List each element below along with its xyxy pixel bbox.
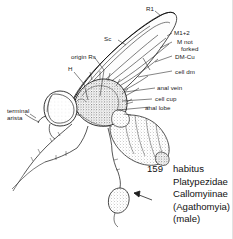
label-m1-2: M1+2: [174, 30, 190, 37]
label-anal-lobe: anal lobe: [145, 105, 171, 112]
leader-anal-vein: [125, 88, 155, 92]
hindleg-tarsus-expanded: [108, 188, 129, 213]
proboscis: [49, 124, 55, 139]
figure-number: 159: [147, 163, 163, 176]
leg-bristles: [31, 132, 120, 170]
label-r1: R1: [146, 6, 154, 13]
midleg-coxa: [77, 126, 88, 148]
foreleg-tibia: [24, 147, 46, 174]
label-sc: Sc: [104, 36, 111, 43]
pointer-arrow: [134, 191, 152, 200]
scutellum: [112, 110, 130, 127]
label-cell-cup: cell cup: [155, 96, 176, 103]
antenna: [38, 116, 46, 123]
foreleg-femur: [46, 124, 72, 147]
midleg-tarsus: [12, 178, 23, 189]
caption-line-subfamily: Callomyiinae: [173, 188, 230, 201]
body-group: [25, 71, 169, 165]
caption-line-sex: (male): [173, 213, 230, 226]
legs-group: [12, 124, 129, 227]
leader-terminal-arista: [30, 114, 36, 118]
caption-line-genus: (Agathomyia): [173, 201, 230, 214]
label-m-not-forked-line2: forked: [181, 46, 199, 53]
leader-r1: [155, 11, 161, 16]
label-dm-cu: DM-Cu: [175, 54, 195, 61]
label-cell-dm: cell dm: [175, 69, 195, 76]
midleg-femur: [45, 148, 77, 162]
label-terminal-arista-line2: arista: [7, 115, 22, 122]
label-anal-vein: anal vein: [157, 85, 182, 92]
label-origin-rs: origin Rs: [71, 54, 96, 61]
hindleg-femur: [112, 151, 118, 172]
leader-cell-dm: [138, 71, 172, 77]
caption-line-habitus: habitus: [173, 163, 230, 176]
label-h: H: [68, 66, 73, 73]
caption-lines: habitus Platypezidae Callomyiinae (Agath…: [173, 163, 230, 226]
hindleg-tarsus-tip: [114, 213, 118, 227]
caption-line-family: Platypezidae: [173, 176, 230, 189]
figure-panel: R1 Sc M1+2 M not forked DM-Cu cell dm an…: [0, 0, 233, 239]
hindleg-tibia: [118, 172, 120, 188]
